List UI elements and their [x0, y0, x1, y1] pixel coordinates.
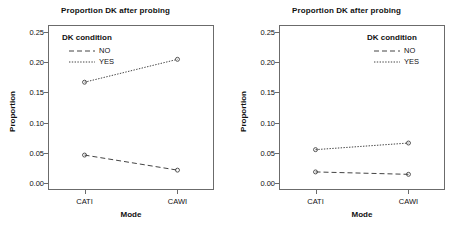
y-tick-mark — [275, 183, 279, 184]
x-tick-mark — [408, 190, 409, 194]
legend-key-dashed-icon — [374, 47, 400, 55]
legend: DK condition NO YES — [62, 33, 114, 67]
legend-title: DK condition — [367, 33, 419, 42]
series-line — [85, 155, 178, 170]
legend-item-yes: YES — [69, 56, 114, 67]
chart-panel-right: Proportion DK after probing Proportion 0… — [231, 0, 462, 236]
y-tick-label: 0.15 — [18, 88, 44, 97]
series-line — [316, 143, 409, 150]
y-tick-mark — [44, 62, 48, 63]
y-axis-ticks: 0.000.050.100.150.200.25 — [14, 0, 44, 236]
chart-panel-left: Proportion DK after probing Proportion 0… — [0, 0, 231, 236]
x-tick-mark — [85, 190, 86, 194]
figure-canvas: Proportion DK after probing Proportion 0… — [0, 0, 463, 236]
y-tick-label: 0.00 — [18, 178, 44, 187]
y-tick-label: 0.05 — [249, 148, 275, 157]
x-tick-label: CAWI — [154, 197, 200, 206]
plot-area-right — [279, 25, 445, 190]
legend-item-no: NO — [374, 45, 419, 56]
legend-key-dotted-icon — [69, 58, 95, 66]
y-tick-mark — [44, 153, 48, 154]
x-axis-title: Mode — [279, 210, 445, 219]
y-tick-mark — [275, 32, 279, 33]
legend-label-yes: YES — [99, 56, 114, 67]
y-tick-label: 0.10 — [18, 118, 44, 127]
y-axis-ticks: 0.000.050.100.150.200.25 — [245, 0, 275, 236]
series-no — [314, 170, 411, 176]
legend-label-no: NO — [99, 45, 110, 56]
x-tick-mark — [316, 190, 317, 194]
y-tick-label: 0.00 — [249, 178, 275, 187]
y-tick-label: 0.20 — [18, 58, 44, 67]
legend-label-no: NO — [404, 45, 415, 56]
y-tick-label: 0.15 — [249, 88, 275, 97]
x-tick-label: CATI — [293, 197, 339, 206]
y-tick-mark — [275, 153, 279, 154]
legend-key-dotted-icon — [374, 58, 400, 66]
series-no — [83, 153, 180, 172]
y-tick-label: 0.20 — [249, 58, 275, 67]
y-tick-mark — [275, 123, 279, 124]
y-tick-mark — [44, 123, 48, 124]
series-yes — [314, 141, 411, 152]
y-tick-mark — [44, 92, 48, 93]
legend-label-yes: YES — [404, 56, 419, 67]
y-tick-label: 0.25 — [249, 28, 275, 37]
x-tick-label: CATI — [62, 197, 108, 206]
y-tick-label: 0.25 — [18, 28, 44, 37]
legend-title: DK condition — [62, 33, 114, 42]
y-tick-label: 0.10 — [249, 118, 275, 127]
y-tick-mark — [275, 92, 279, 93]
y-tick-mark — [275, 62, 279, 63]
legend-key-dashed-icon — [69, 47, 95, 55]
y-tick-label: 0.05 — [18, 148, 44, 157]
legend-item-no: NO — [69, 45, 114, 56]
y-tick-mark — [44, 32, 48, 33]
x-tick-label: CAWI — [385, 197, 431, 206]
x-axis-title: Mode — [48, 210, 214, 219]
legend-item-yes: YES — [374, 56, 419, 67]
series-line — [316, 172, 409, 174]
x-tick-mark — [177, 190, 178, 194]
y-tick-mark — [44, 183, 48, 184]
legend: DK condition NO YES — [367, 33, 419, 67]
